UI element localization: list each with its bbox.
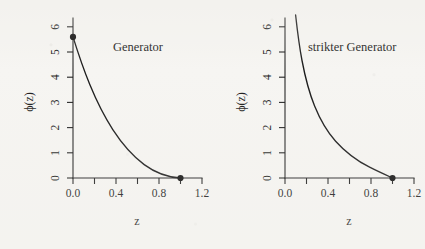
y-tick-label: 0 [49, 175, 61, 181]
y-tick-label: 4 [261, 74, 273, 80]
y-ticks-left [67, 27, 73, 178]
x-tick-label: 0.8 [152, 187, 167, 199]
x-tick-label: 0.8 [364, 187, 379, 199]
marker-phi-at-one [177, 175, 183, 181]
marker-phi-at-one [389, 175, 395, 181]
x-axis-title-left: z [134, 214, 139, 228]
curve-generator [73, 37, 181, 178]
panel-label-generator: Generator [113, 40, 164, 54]
y-tick-label: 1 [49, 150, 61, 156]
marker-phi-at-zero [70, 34, 76, 40]
x-tick-label: 0.0 [66, 187, 81, 199]
x-tick-labels-right: 0.0 0.4 0.8 1.2 [278, 187, 422, 199]
x-tick-labels-left: 0.0 0.4 0.8 1.2 [66, 187, 210, 199]
x-tick-label: 1.2 [407, 187, 422, 199]
y-tick-label: 3 [49, 99, 61, 105]
y-tick-label: 5 [261, 49, 273, 55]
y-tick-label: 2 [261, 124, 273, 130]
plot-left-svg: 0 1 2 3 4 5 6 0.0 0.4 0.8 [0, 0, 212, 249]
y-tick-label: 4 [49, 74, 61, 80]
y-tick-label: 5 [49, 49, 61, 55]
x-axis-title-right: z [346, 214, 351, 228]
x-tick-label: 1.2 [195, 187, 210, 199]
figure-two-panel-generators: 0 1 2 3 4 5 6 0.0 0.4 0.8 [0, 0, 425, 249]
y-axis-title-right: ϕ(z) [234, 92, 248, 112]
y-tick-labels-right: 0 1 2 3 4 5 6 [261, 24, 273, 181]
y-tick-label: 0 [261, 175, 273, 181]
plot-right-svg: 0 1 2 3 4 5 6 0.0 0.4 0.8 1 [212, 0, 424, 249]
y-tick-label: 6 [49, 24, 61, 30]
panel-strict-generator: 0 1 2 3 4 5 6 0.0 0.4 0.8 1 [212, 0, 424, 249]
x-tick-label: 0.4 [321, 187, 336, 199]
y-tick-label: 3 [261, 99, 273, 105]
y-tick-labels-left: 0 1 2 3 4 5 6 [49, 24, 61, 181]
x-tick-label: 0.0 [278, 187, 293, 199]
y-axis-title-left: ϕ(z) [22, 92, 36, 112]
panel-generator: 0 1 2 3 4 5 6 0.0 0.4 0.8 [0, 0, 212, 249]
y-tick-label: 1 [261, 150, 273, 156]
x-tick-label: 0.4 [109, 187, 124, 199]
y-tick-label: 2 [49, 124, 61, 130]
y-ticks-right [279, 27, 285, 178]
y-tick-label: 6 [261, 24, 273, 30]
panel-label-strict-generator: strikter Generator [308, 40, 397, 54]
